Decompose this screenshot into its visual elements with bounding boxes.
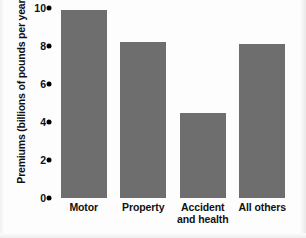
bar (180, 113, 226, 199)
x-axis-label: Accidentand health (173, 201, 233, 225)
y-tick-label: 4 (20, 116, 46, 128)
x-axis-label-line: and health (173, 213, 233, 225)
y-tick-label: 0 (20, 192, 46, 204)
page-edge-right (300, 0, 306, 238)
page-edge-left (0, 0, 4, 238)
y-tick-dot (47, 196, 52, 201)
plot-area (54, 8, 292, 198)
page-edge-bottom (0, 233, 306, 238)
bar (61, 10, 107, 198)
y-tick-label: 10 (20, 2, 46, 14)
x-axis-label-line: All others (233, 201, 293, 213)
y-tick-label: 6 (20, 78, 46, 90)
x-axis-label: All others (233, 201, 293, 213)
y-tick-label: 2 (20, 154, 46, 166)
x-axis-label-line: Motor (54, 201, 114, 213)
y-tick-dot (47, 158, 52, 163)
bar (120, 42, 166, 198)
y-tick-dot (47, 82, 52, 87)
x-axis-label-line: Property (114, 201, 174, 213)
x-axis-label-line: Accident (173, 201, 233, 213)
y-tick-dot (47, 44, 52, 49)
y-tick-dot (47, 120, 52, 125)
y-tick-label: 8 (20, 40, 46, 52)
bar (239, 44, 285, 198)
bar-chart: Premiums (billions of pounds per year) 0… (0, 0, 306, 238)
x-axis-label: Motor (54, 201, 114, 213)
x-axis-label: Property (114, 201, 174, 213)
y-tick-dot (47, 6, 52, 11)
